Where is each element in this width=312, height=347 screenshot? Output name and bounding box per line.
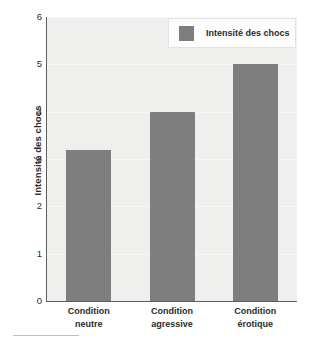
- y-axis-tick-label: 5: [24, 59, 42, 69]
- legend-swatch-icon: [179, 26, 194, 41]
- y-axis-tick-label: 1: [24, 249, 42, 259]
- x-axis-tick-label-line: érotique: [214, 318, 297, 331]
- x-axis-tick-label: Conditionneutre: [47, 305, 130, 339]
- y-axis-tick-labels: 6543210: [18, 0, 42, 347]
- y-axis-tick-label: 3: [24, 154, 42, 164]
- x-axis-tick-label: Conditionérotique: [214, 305, 297, 339]
- x-axis-tick-label-line: Condition: [151, 306, 193, 316]
- legend-label: Intensité des chocs: [206, 28, 290, 38]
- chart-figure: Intensité des chocs 6543210 Conditionneu…: [0, 0, 312, 347]
- footer-rule: [13, 335, 79, 336]
- x-axis-tick-label-line: Condition: [68, 306, 110, 316]
- y-axis-tick-label: 2: [24, 201, 42, 211]
- x-axis-tick-label-line: Condition: [234, 306, 276, 316]
- y-axis-tick-label: 6: [24, 12, 42, 22]
- x-axis-tick-label-line: agressive: [130, 318, 213, 331]
- bar: [150, 112, 195, 301]
- chart-legend: Intensité des chocs: [168, 18, 296, 48]
- x-axis-tick-label: Conditionagressive: [130, 305, 213, 339]
- x-axis-line: [46, 301, 297, 302]
- bar: [233, 64, 278, 301]
- y-axis-line: [46, 17, 47, 302]
- x-axis-tick-label-line: neutre: [47, 318, 130, 331]
- x-axis-tick-labels: ConditionneutreConditionagressiveConditi…: [47, 305, 297, 339]
- bar: [66, 150, 111, 301]
- y-axis-tick-label: 4: [24, 107, 42, 117]
- y-axis-tick-label: 0: [24, 296, 42, 306]
- plot-area: [47, 17, 297, 301]
